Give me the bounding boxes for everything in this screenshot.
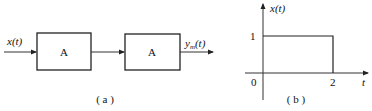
x-axis-label: t	[362, 76, 366, 88]
origin-label: 0	[251, 76, 257, 88]
input-label: x(t)	[6, 35, 23, 48]
signal-plot: x(t) 1 0 2 t ( b )	[245, 2, 368, 106]
block-diagram: x(t) A A ym(t) ( a )	[4, 33, 213, 106]
x-tick-label: 2	[330, 76, 336, 88]
y-axis-label: x(t)	[269, 2, 286, 15]
caption-b: ( b )	[287, 93, 306, 106]
block-1-label: A	[60, 46, 68, 58]
pulse-signal	[263, 36, 333, 73]
y-tick-label: 1	[250, 30, 256, 42]
output-label: ym(t)	[184, 37, 206, 51]
figure: x(t) A A ym(t) ( a ) x(t) 1 0 2 t ( b )	[0, 0, 372, 111]
block-2-label: A	[148, 46, 156, 58]
caption-a: ( a )	[96, 93, 114, 106]
